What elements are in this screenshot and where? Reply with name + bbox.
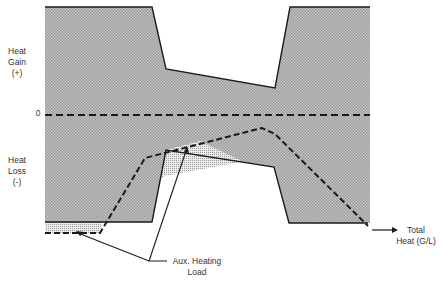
label-line: Loss: [4, 166, 30, 177]
aux-heating-label: Aux. Heating Load: [168, 256, 226, 278]
label-line: Heat: [4, 46, 30, 57]
label-line: Total: [392, 225, 440, 236]
label-line: Load: [168, 267, 226, 278]
heat-gain-label: Heat Gain (+): [4, 46, 30, 79]
label-line: Heat: [4, 155, 30, 166]
zero-label: 0: [33, 108, 43, 119]
label-line: Heat (G/L): [392, 236, 440, 247]
heat-loss-label: Heat Loss (-): [4, 155, 30, 188]
heat-gain-region: [45, 7, 370, 115]
total-heat-label: Total Heat (G/L): [392, 225, 440, 247]
aux-heating-area-left: [45, 222, 103, 233]
label-line: Aux. Heating: [168, 256, 226, 267]
label-line: (+): [4, 68, 30, 79]
heat-loss-region: [45, 115, 370, 223]
label-line: Gain: [4, 57, 30, 68]
heat-balance-diagram: [0, 0, 444, 281]
label-line: (-): [4, 177, 30, 188]
